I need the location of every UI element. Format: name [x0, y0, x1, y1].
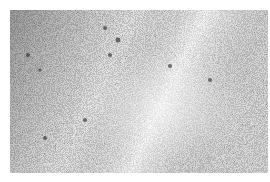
texture-svg: [10, 10, 268, 173]
noise-texture-image: [10, 10, 268, 173]
